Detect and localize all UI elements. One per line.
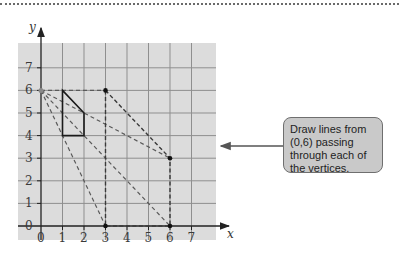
center-of-enlargement-point bbox=[39, 88, 44, 93]
y-tick-label: 4 bbox=[25, 129, 33, 143]
x-tick-label: 3 bbox=[102, 231, 110, 245]
y-tick-label: 5 bbox=[25, 106, 33, 120]
x-tick-label: 6 bbox=[166, 231, 174, 245]
y-tick-label: 0 bbox=[25, 219, 33, 233]
y-tick-label: 7 bbox=[25, 61, 33, 75]
callout-text: Draw lines from (0,6) passing through ea… bbox=[290, 123, 366, 174]
y-tick-label: 6 bbox=[25, 83, 33, 97]
x-tick-label: 2 bbox=[80, 231, 88, 245]
instruction-callout: Draw lines from (0,6) passing through ea… bbox=[283, 117, 383, 173]
x-tick-label: 7 bbox=[188, 231, 196, 245]
x-tick-label: 5 bbox=[145, 231, 153, 245]
y-tick-label: 1 bbox=[25, 196, 33, 210]
x-tick-label: 4 bbox=[123, 231, 131, 245]
x-tick-label: 0 bbox=[37, 231, 45, 245]
y-axis-label: y bbox=[28, 20, 36, 34]
y-tick-label: 2 bbox=[25, 174, 33, 188]
y-tick-label: 3 bbox=[25, 151, 33, 165]
grid-background bbox=[18, 43, 216, 240]
x-axis-label: x bbox=[227, 227, 234, 241]
x-tick-label: 1 bbox=[59, 231, 67, 245]
